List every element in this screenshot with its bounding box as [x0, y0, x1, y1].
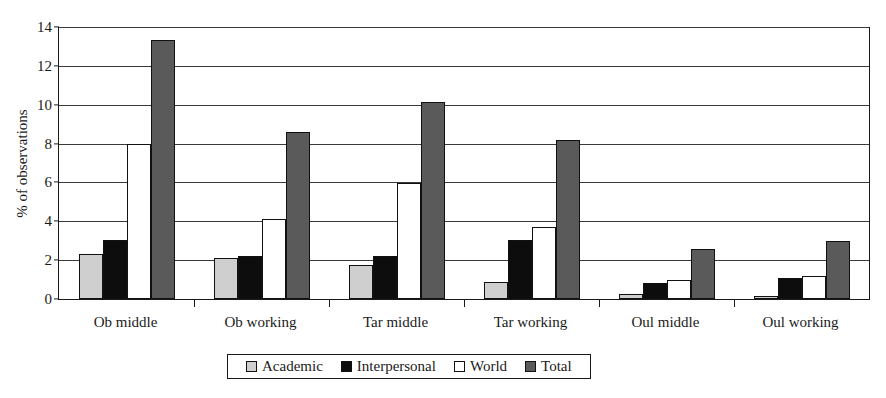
bar-world-tar-working [532, 227, 556, 299]
legend-swatch-icon [341, 361, 352, 372]
bar-interpersonal-oul-working [778, 278, 802, 299]
y-axis-title: % of observations [14, 54, 31, 274]
bar-world-ob-working [262, 219, 286, 299]
legend-label: Total [541, 359, 572, 374]
legend-item-interpersonal[interactable]: Interpersonal [341, 359, 436, 374]
x-axis-label-tar-working: Tar working [494, 314, 568, 331]
gridline [59, 66, 869, 67]
x-axis-label-ob-working: Ob working [224, 314, 296, 331]
legend-label: World [470, 359, 507, 374]
legend-label: Academic [262, 359, 323, 374]
y-tick-mark [54, 26, 59, 27]
gridline [59, 260, 869, 261]
bar-interpersonal-ob-working [238, 256, 262, 299]
bar-world-oul-middle [667, 280, 691, 299]
legend-swatch-icon [525, 361, 536, 372]
gridline [59, 144, 869, 145]
y-tick-label: 2 [45, 252, 53, 269]
x-axis-label-oul-middle: Oul middle [632, 314, 700, 331]
bar-total-ob-middle [151, 40, 175, 299]
bar-total-ob-working [286, 132, 310, 299]
bar-interpersonal-tar-middle [373, 256, 397, 299]
gridline [59, 105, 869, 106]
bar-chart: % of observations 02468101214 AcademicIn… [0, 0, 886, 398]
x-axis-tick [329, 299, 330, 307]
bar-total-oul-middle [691, 249, 715, 299]
y-tick-mark [54, 221, 59, 222]
legend-swatch-icon [246, 361, 257, 372]
bar-academic-tar-middle [349, 265, 373, 299]
y-tick-mark [54, 260, 59, 261]
bar-world-ob-middle [127, 144, 151, 299]
x-axis-label-ob-middle: Ob middle [94, 314, 158, 331]
y-tick-mark [54, 298, 59, 299]
x-axis-tick [194, 299, 195, 307]
y-tick-label: 12 [37, 57, 52, 74]
y-tick-mark [54, 65, 59, 66]
gridline [59, 221, 869, 222]
legend-swatch-icon [454, 361, 465, 372]
legend-item-academic[interactable]: Academic [246, 359, 323, 374]
bar-academic-oul-middle [619, 294, 643, 299]
y-tick-label: 10 [37, 96, 52, 113]
y-tick-mark [54, 104, 59, 105]
legend-item-total[interactable]: Total [525, 359, 572, 374]
legend-item-world[interactable]: World [454, 359, 507, 374]
chart-legend: AcademicInterpersonalWorldTotal [227, 354, 591, 379]
y-tick-mark [54, 182, 59, 183]
bar-world-tar-middle [397, 183, 421, 299]
bar-interpersonal-tar-working [508, 240, 532, 299]
plot-area: 02468101214 [58, 27, 870, 300]
x-axis-tick [464, 299, 465, 307]
y-tick-label: 4 [45, 213, 53, 230]
bar-academic-tar-working [484, 282, 508, 299]
bar-total-oul-working [826, 241, 850, 299]
gridline [59, 27, 869, 28]
y-tick-mark [54, 143, 59, 144]
x-axis-tick [734, 299, 735, 307]
x-axis-label-tar-middle: Tar middle [363, 314, 428, 331]
y-tick-label: 14 [37, 19, 52, 36]
x-axis-tick [599, 299, 600, 307]
gridline [59, 182, 869, 183]
bar-total-tar-working [556, 140, 580, 299]
bar-interpersonal-ob-middle [103, 240, 127, 299]
bar-academic-oul-working [754, 296, 778, 299]
bar-interpersonal-oul-middle [643, 283, 667, 300]
y-tick-label: 0 [45, 291, 53, 308]
y-tick-label: 8 [45, 135, 53, 152]
bar-world-oul-working [802, 276, 826, 299]
legend-label: Interpersonal [357, 359, 436, 374]
bar-academic-ob-middle [79, 254, 103, 299]
y-tick-label: 6 [45, 174, 53, 191]
x-axis-label-oul-working: Oul working [762, 314, 838, 331]
bar-academic-ob-working [214, 258, 238, 299]
bar-total-tar-middle [421, 102, 445, 299]
